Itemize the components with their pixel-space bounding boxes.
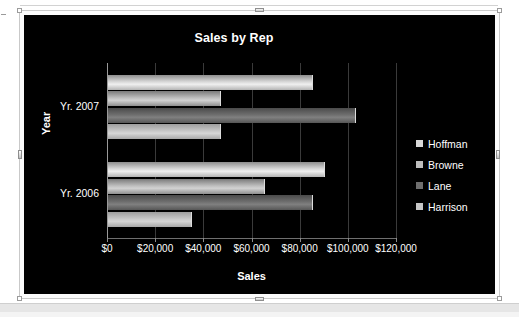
axis-tick — [300, 238, 301, 242]
legend-item-lane[interactable]: Lane — [416, 175, 492, 196]
resize-handle-top[interactable] — [255, 8, 264, 12]
chart-legend: HoffmanBrowneLaneHarrison — [416, 133, 492, 217]
resize-handle-right[interactable] — [496, 150, 500, 159]
legend-swatch-icon — [416, 161, 423, 168]
category-label: Yr. 2007 — [29, 100, 99, 112]
plot-area — [107, 63, 396, 238]
page-bottom-band-lower — [0, 312, 519, 317]
bar-hoffman-2006[interactable] — [108, 162, 325, 177]
axis-title-y: Year — [40, 112, 52, 135]
bar-browne-2006[interactable] — [108, 179, 265, 194]
bar-harrison-2006[interactable] — [108, 212, 192, 227]
bar-lane-2006[interactable] — [108, 195, 313, 210]
axis-tick — [252, 238, 253, 242]
legend-swatch-icon — [416, 140, 423, 147]
resize-handle-bottom-right[interactable] — [497, 296, 502, 301]
legend-label: Harrison — [428, 201, 468, 213]
legend-label: Browne — [428, 159, 464, 171]
legend-item-hoffman[interactable]: Hoffman — [416, 133, 492, 154]
legend-item-browne[interactable]: Browne — [416, 154, 492, 175]
chart-title: Sales by Rep — [24, 31, 444, 45]
axis-tick — [107, 238, 108, 242]
legend-swatch-icon — [416, 203, 423, 210]
legend-item-harrison[interactable]: Harrison — [416, 196, 492, 217]
page-margin-tick — [1, 14, 6, 15]
chart-canvas[interactable]: Sales by Rep Yr. 2007Yr. 2006 $0$20,000$… — [24, 15, 495, 294]
axis-tick — [203, 238, 204, 242]
gridline — [348, 63, 349, 238]
resize-handle-bottom[interactable] — [255, 297, 264, 301]
bar-hoffman-2007[interactable] — [108, 75, 313, 90]
axis-title-x: Sales — [107, 270, 396, 282]
legend-label: Hoffman — [428, 138, 468, 150]
resize-handle-left[interactable] — [18, 150, 22, 159]
legend-swatch-icon — [416, 182, 423, 189]
bar-lane-2007[interactable] — [108, 108, 356, 123]
chart-object[interactable]: Sales by Rep Yr. 2007Yr. 2006 $0$20,000$… — [19, 10, 500, 299]
bar-harrison-2007[interactable] — [108, 124, 221, 139]
value-tick-label: $120,000 — [366, 243, 426, 254]
axis-tick — [155, 238, 156, 242]
resize-handle-top-left[interactable] — [17, 8, 22, 13]
axis-tick — [348, 238, 349, 242]
legend-label: Lane — [428, 180, 451, 192]
bar-browne-2007[interactable] — [108, 91, 221, 106]
resize-handle-bottom-left[interactable] — [17, 296, 22, 301]
document-page: Sales by Rep Yr. 2007Yr. 2006 $0$20,000$… — [0, 0, 519, 317]
category-label: Yr. 2006 — [29, 187, 99, 199]
gridline — [396, 63, 397, 238]
resize-handle-top-right[interactable] — [497, 8, 502, 13]
axis-tick — [396, 238, 397, 242]
page-top-rule — [20, 5, 498, 6]
